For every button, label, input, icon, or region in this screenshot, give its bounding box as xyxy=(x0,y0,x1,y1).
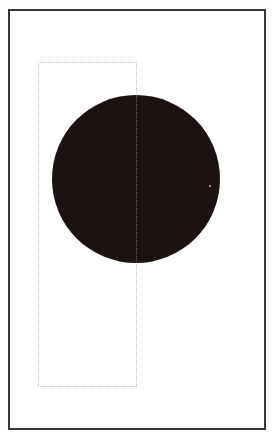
scan-speck xyxy=(209,185,211,187)
diagram-page: Framed page with a solid black circle ov… xyxy=(0,0,273,433)
guide-line-through-circle xyxy=(136,95,137,263)
diagram-description: Framed page with a solid black circle ov… xyxy=(0,0,1,1)
